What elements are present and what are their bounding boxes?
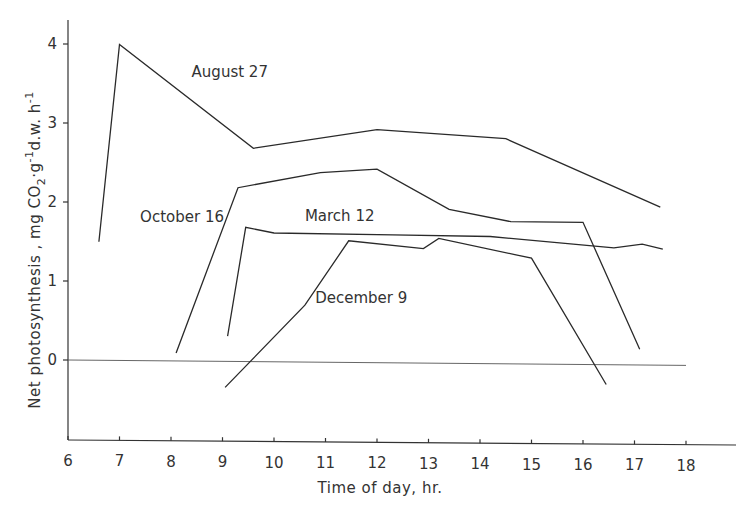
y-tick-label: 4 <box>47 35 57 53</box>
y-tick-label: 2 <box>47 193 57 211</box>
series-label-august-27: August 27 <box>192 63 268 81</box>
series-label-march-12: March 12 <box>305 207 375 225</box>
y-tick-label: 0 <box>47 351 57 369</box>
y-tick-label: 3 <box>47 114 57 132</box>
series-line-october-16 <box>176 169 640 353</box>
series-line-december-9 <box>225 238 606 387</box>
series-line-march-12 <box>228 227 663 336</box>
x-tick-label: 6 <box>63 452 73 470</box>
x-tick-label: 16 <box>573 456 592 474</box>
x-axis-title: Time of day, hr. <box>317 479 443 497</box>
x-tick-label: 14 <box>470 455 489 473</box>
series-labels: August 27October 16March 12December 9 <box>140 63 407 307</box>
x-tick-label: 10 <box>264 454 283 472</box>
chart: 6789101112131415161718 01234 August 27Oc… <box>0 0 753 514</box>
x-tick-label: 7 <box>115 452 125 470</box>
x-tick-label: 12 <box>367 454 386 472</box>
x-axis <box>68 440 736 445</box>
x-tick-label: 8 <box>166 453 176 471</box>
x-tick-label: 13 <box>419 455 438 473</box>
series-label-october-16: October 16 <box>140 208 224 226</box>
y-ticks: 01234 <box>47 35 68 369</box>
y-tick-label: 1 <box>47 272 57 290</box>
x-tick-label: 9 <box>218 453 228 471</box>
x-tick-label: 11 <box>316 454 335 472</box>
x-tick-label: 15 <box>522 456 541 474</box>
y-axis-title: Net photosynthesis , mg CO2·g-1d.w. h-1 <box>23 91 48 408</box>
series-label-december-9: December 9 <box>315 289 407 307</box>
axes <box>68 20 736 445</box>
x-tick-label: 18 <box>676 457 695 475</box>
x-tick-label: 17 <box>625 456 644 474</box>
svg-text:Net photosynthesis , mg CO2·g: Net photosynthesis , mg CO2·g-1d.w. h-1 <box>23 91 48 408</box>
